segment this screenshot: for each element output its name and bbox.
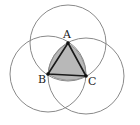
label-a: A: [62, 28, 72, 41]
point-a: [66, 41, 70, 45]
label-b: B: [38, 73, 46, 86]
reuleaux-diagram: A B C: [0, 0, 140, 125]
diagram-canvas: A B C: [0, 0, 140, 125]
label-c: C: [88, 75, 96, 88]
point-b: [46, 72, 50, 76]
